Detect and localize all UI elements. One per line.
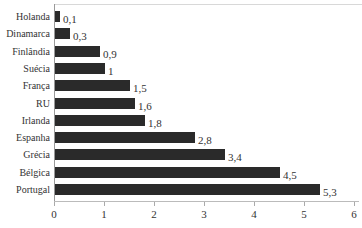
category-label: RU — [36, 97, 50, 111]
value-label: 4,5 — [283, 168, 297, 182]
value-label: 0,3 — [73, 29, 87, 43]
bar-row: Finlândia0,9 — [0, 44, 362, 61]
bar-row: Bélgica4,5 — [0, 165, 362, 182]
value-label: 1 — [108, 64, 114, 78]
category-label: França — [23, 79, 50, 93]
bar-row: Grécia3,4 — [0, 147, 362, 164]
x-tick-mark — [154, 202, 155, 206]
category-label: Suécia — [23, 62, 50, 76]
x-tick-label: 1 — [94, 208, 114, 220]
bar-chart: Holanda0,1Dinamarca0,3Finlândia0,9Suécia… — [0, 0, 362, 228]
bar — [55, 132, 195, 143]
bar — [55, 184, 320, 195]
value-label: 2,8 — [198, 133, 212, 147]
value-label: 1,5 — [133, 81, 147, 95]
x-tick-mark — [354, 202, 355, 206]
bar-row: Dinamarca0,3 — [0, 26, 362, 43]
category-label: Grécia — [23, 148, 50, 162]
value-label: 1,6 — [138, 99, 152, 113]
bar-row: RU1,6 — [0, 96, 362, 113]
bar — [55, 46, 100, 57]
value-label: 0,9 — [103, 47, 117, 61]
value-label: 1,8 — [148, 116, 162, 130]
x-tick-label: 0 — [44, 208, 64, 220]
bar — [55, 11, 60, 22]
x-tick-label: 6 — [344, 208, 362, 220]
value-label: 5,3 — [323, 185, 337, 199]
category-label: Espanha — [16, 131, 50, 145]
category-label: Irlanda — [22, 114, 50, 128]
category-label: Dinamarca — [6, 27, 50, 41]
x-tick-mark — [104, 202, 105, 206]
category-label: Finlândia — [12, 45, 50, 59]
x-tick-mark — [54, 202, 55, 206]
bar-row: Portugal5,3 — [0, 182, 362, 199]
bar-row: Holanda0,1 — [0, 9, 362, 26]
bar — [55, 63, 105, 74]
bar — [55, 167, 280, 178]
value-label: 3,4 — [228, 150, 242, 164]
bar-row: Irlanda1,8 — [0, 113, 362, 130]
x-tick-label: 3 — [194, 208, 214, 220]
bar — [55, 149, 225, 160]
value-label: 0,1 — [63, 12, 77, 26]
x-tick-mark — [254, 202, 255, 206]
category-label: Holanda — [16, 10, 50, 24]
category-label: Bélgica — [19, 166, 50, 180]
x-tick-label: 4 — [244, 208, 264, 220]
plot-frame — [54, 4, 362, 5]
x-tick-label: 2 — [144, 208, 164, 220]
x-tick-label: 5 — [294, 208, 314, 220]
x-tick-mark — [304, 202, 305, 206]
x-tick-mark — [204, 202, 205, 206]
bar — [55, 80, 130, 91]
bar — [55, 28, 70, 39]
bar — [55, 98, 135, 109]
category-label: Portugal — [16, 183, 50, 197]
bar-row: Suécia1 — [0, 61, 362, 78]
x-axis — [54, 201, 359, 202]
bar-row: Espanha2,8 — [0, 130, 362, 147]
bar-row: França1,5 — [0, 78, 362, 95]
bar — [55, 115, 145, 126]
